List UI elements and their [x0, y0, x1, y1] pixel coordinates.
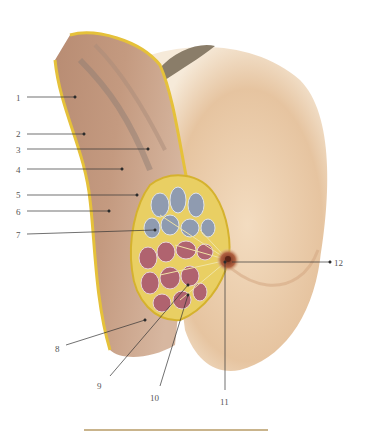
leader-dot-5	[136, 194, 138, 196]
label-7: 7	[16, 231, 21, 240]
label-4: 4	[16, 166, 21, 175]
label-10: 10	[150, 394, 159, 403]
leader-dot-10	[187, 294, 189, 296]
label-6: 6	[16, 208, 21, 217]
anatomy-figure	[0, 0, 365, 431]
leader-dot-2	[83, 133, 85, 135]
leader-dot-12	[329, 261, 331, 263]
leader-dot-4	[121, 168, 123, 170]
label-8: 8	[55, 345, 60, 354]
label-1: 1	[16, 94, 21, 103]
label-11: 11	[220, 398, 229, 407]
leader-dot-7	[154, 229, 156, 231]
leader-dot-11	[224, 261, 226, 263]
label-9: 9	[97, 382, 102, 391]
leader-dot-3	[147, 148, 149, 150]
leader-dot-1	[74, 96, 76, 98]
leader-dot-8	[144, 319, 146, 321]
label-5: 5	[16, 191, 21, 200]
leader-dot-9	[187, 284, 189, 286]
label-2: 2	[16, 130, 21, 139]
label-3: 3	[16, 146, 21, 155]
label-12: 12	[334, 259, 343, 268]
leader-dot-6	[108, 210, 110, 212]
